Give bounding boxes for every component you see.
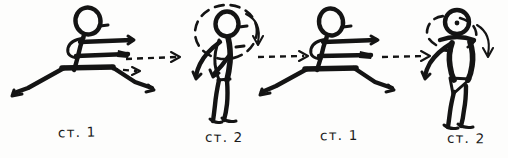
leg-rear-3: [262, 69, 307, 92]
leg-rear-1: [14, 68, 64, 93]
transition-arrow-1-shaft: [126, 57, 176, 59]
figure-upright-2: [192, 2, 263, 123]
shoulder-tick-2: [236, 46, 244, 47]
caption-pose-2: ст. 2: [205, 129, 244, 145]
leg-rear-4: [448, 92, 454, 127]
head-1: [73, 5, 103, 37]
foot-front-4: [458, 124, 473, 128]
transition-arrow-3-head: [421, 51, 430, 61]
face-dot-4: [455, 21, 460, 26]
hip-bar-1: [62, 67, 113, 68]
torso-left-4: [449, 43, 454, 80]
arm-upper-1: [80, 40, 132, 42]
head-3: [317, 7, 345, 38]
drawing-canvas: ст. 1 ст. 2 ст. 1 ст. 2: [0, 0, 508, 158]
leg-front-1: [112, 67, 152, 88]
head-tick-1: [100, 25, 108, 26]
leg-front-3: [354, 68, 392, 88]
leg-front-4: [461, 86, 466, 126]
foot-front-2: [222, 118, 236, 122]
foot-rear-2: [210, 119, 222, 123]
figure-low-lunge-1: [12, 5, 154, 96]
figure-upright-4: [422, 10, 493, 129]
figure-low-lunge-3: [260, 7, 394, 95]
head-tick-3: [343, 26, 351, 27]
transition-arrow-3: [382, 51, 430, 61]
transition-arrow-2-shaft: [258, 56, 304, 57]
head-tick-2: [239, 26, 247, 27]
torso-right-4: [468, 42, 473, 80]
hand-lower-3: [359, 51, 373, 59]
hand-lower-1: [117, 50, 130, 58]
arm-upper-3: [323, 40, 376, 42]
transition-arrow-3-shaft: [382, 56, 426, 57]
transition-arrow-2: [258, 51, 308, 61]
leg-front-2: [224, 80, 228, 120]
caption-pose-3: ст. 1: [320, 127, 359, 143]
caption-pose-1: ст. 1: [58, 124, 97, 141]
caption-pose-4: ст. 2: [447, 130, 486, 147]
leg-rear-2: [213, 80, 219, 121]
foot-rear-4: [444, 125, 458, 129]
head-2: [216, 12, 239, 37]
hip-bar-3: [305, 68, 356, 69]
